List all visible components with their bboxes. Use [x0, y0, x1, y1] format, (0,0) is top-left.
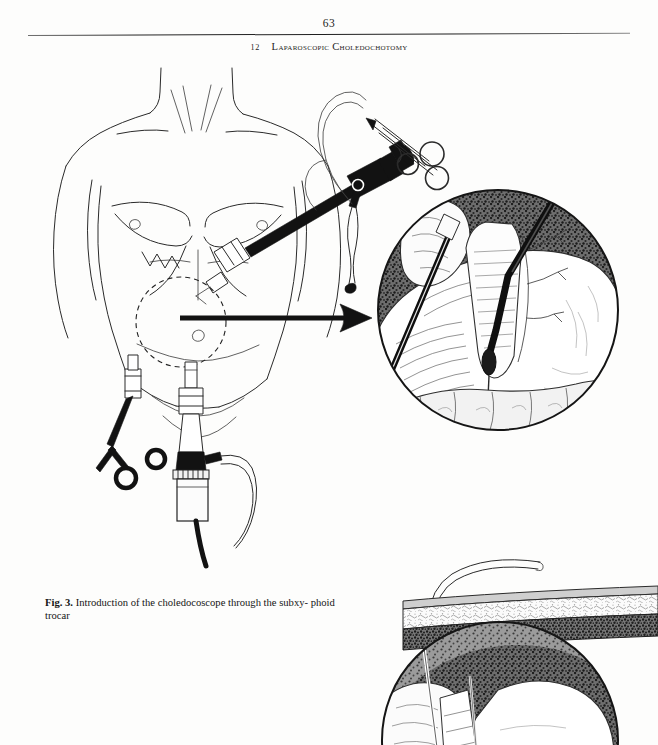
pointer-arrow: [180, 304, 372, 332]
lateral-trocar: [96, 355, 165, 488]
figure-3-label: Fig. 3.: [45, 597, 73, 608]
flexible-catheter: [428, 560, 588, 630]
magnified-region-marker: [136, 277, 226, 367]
subxyphoid-trocar: [196, 238, 250, 304]
operative-inset-lower: [380, 622, 618, 745]
chapter-number: 12: [250, 43, 259, 52]
grasping-forceps: [366, 118, 449, 190]
patient-torso: [54, 68, 341, 437]
abdominal-wall-layers: [403, 586, 658, 650]
page-number: 63: [0, 17, 658, 29]
header-rule: [28, 33, 630, 36]
umbilical-trocar-camera: [173, 362, 257, 566]
figure-artwork: [0, 0, 658, 745]
running-head: 12 Laparoscopic Choledochotomy: [0, 41, 658, 52]
operative-inset: [378, 190, 623, 436]
figure-3-caption-line-1: Introduction of the choledocoscope throu…: [76, 597, 308, 608]
running-head-title: Laparoscopic Choledochotomy: [272, 41, 408, 52]
figure-3-caption: Fig. 3. Introduction of the choledocosco…: [45, 596, 345, 623]
book-page: 63 12 Laparoscopic Choledochotomy: [0, 0, 658, 745]
choledocoscope: [245, 92, 417, 293]
fig-4-partial: [380, 560, 658, 745]
